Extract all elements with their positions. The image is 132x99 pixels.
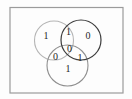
region-value-top-right-only: 0 (86, 30, 91, 41)
venn-diagram-canvas: 1 1 0 0 0 1 1 (0, 0, 132, 99)
venn-diagram-panel: 1 1 0 0 0 1 1 (0, 0, 132, 99)
region-value-top-right-and-bottom: 1 (78, 52, 83, 63)
region-value-top-left-and-bottom: 0 (53, 51, 58, 62)
region-value-top-left-only: 1 (44, 30, 49, 41)
region-value-top-left-and-top-right: 1 (66, 26, 71, 37)
region-value-center-all-three: 0 (67, 43, 72, 54)
region-value-bottom-only: 1 (66, 63, 71, 74)
